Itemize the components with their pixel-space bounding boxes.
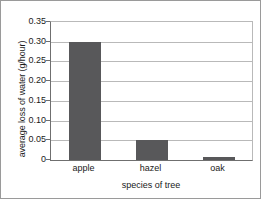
bars-layer	[51, 22, 252, 160]
bar-apple	[69, 42, 101, 160]
y-axis-tick-mark	[46, 80, 50, 81]
y-axis-tick-label: 0.30	[15, 36, 46, 45]
x-axis-title: species of tree	[50, 179, 252, 191]
plot-area	[50, 21, 253, 161]
y-axis-tick-mark	[46, 60, 50, 61]
y-axis-tick-mark	[46, 120, 50, 121]
y-axis-tick-label: 0.05	[15, 135, 46, 144]
x-axis-tick-label-oak: oak	[210, 162, 225, 175]
x-axis-tick-label-apple: apple	[72, 162, 94, 175]
bar-oak	[203, 157, 235, 160]
y-axis-tick-label: 0	[15, 155, 46, 164]
y-axis-tick-mark	[46, 159, 50, 160]
y-axis-tick-label: 0.15	[15, 95, 46, 104]
bar-chart-figure: average loss of water (g/hour) 00.050.10…	[0, 0, 261, 199]
y-axis-tick-label: 0.35	[15, 17, 46, 26]
y-axis-tick-mark	[46, 139, 50, 140]
y-axis-tick-label: 0.25	[15, 56, 46, 65]
x-axis-tick-label-hazel: hazel	[140, 162, 162, 175]
y-axis-tick-mark	[46, 21, 50, 22]
y-axis-tick-label: 0.20	[15, 76, 46, 85]
bar-hazel	[136, 140, 168, 160]
y-axis-tick-label: 0.10	[15, 115, 46, 124]
y-axis-tick-mark	[46, 41, 50, 42]
x-axis-tick-labels: applehazeloak	[50, 162, 252, 175]
y-axis-tick-labels: 00.050.100.150.200.250.300.35	[15, 21, 46, 159]
y-axis-tick-mark	[46, 100, 50, 101]
